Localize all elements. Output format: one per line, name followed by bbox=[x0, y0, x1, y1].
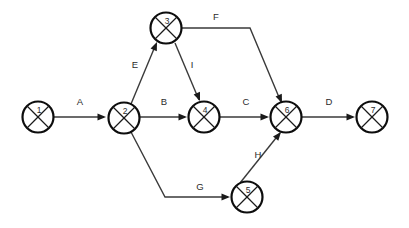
node-5[interactable]: 5 bbox=[232, 182, 263, 213]
edge-f bbox=[182, 28, 281, 102]
edge-label-i: I bbox=[191, 59, 194, 70]
edge-label-a: A bbox=[77, 96, 84, 107]
arrowhead-g bbox=[222, 194, 231, 201]
node-label-5: 5 bbox=[246, 185, 251, 195]
node-1[interactable]: 1 bbox=[23, 102, 54, 133]
node-label-3: 3 bbox=[165, 16, 170, 26]
node-2[interactable]: 2 bbox=[109, 103, 140, 134]
edge-label-c: C bbox=[243, 96, 250, 107]
node-label-7: 7 bbox=[371, 105, 376, 115]
node-6[interactable]: 6 bbox=[271, 102, 302, 133]
edge-label-g: G bbox=[196, 181, 203, 192]
edge-i bbox=[175, 43, 199, 100]
node-4[interactable]: 4 bbox=[189, 102, 220, 133]
node-label-1: 1 bbox=[37, 105, 42, 115]
nodes-layer: 1234567 bbox=[23, 13, 388, 213]
network-diagram-svg: 1234567 AEBIFCGHD bbox=[0, 0, 409, 228]
edge-label-d: D bbox=[326, 96, 333, 107]
network-diagram-canvas: 1234567 AEBIFCGHD bbox=[0, 0, 409, 228]
edge-label-b: B bbox=[161, 96, 167, 107]
node-label-6: 6 bbox=[285, 105, 290, 115]
edge-label-f: F bbox=[213, 11, 219, 22]
arrowhead-b bbox=[179, 114, 188, 121]
node-7[interactable]: 7 bbox=[357, 102, 388, 133]
arrowhead-c bbox=[261, 114, 270, 121]
arrowhead-d bbox=[347, 114, 356, 121]
edge-label-e: E bbox=[132, 59, 138, 70]
node-label-4: 4 bbox=[203, 105, 208, 115]
node-3[interactable]: 3 bbox=[151, 13, 182, 44]
node-label-2: 2 bbox=[123, 106, 128, 116]
edge-label-h: H bbox=[255, 149, 262, 160]
edge-e bbox=[131, 44, 156, 104]
edge-g bbox=[131, 132, 228, 197]
arrowhead-a bbox=[98, 114, 107, 121]
